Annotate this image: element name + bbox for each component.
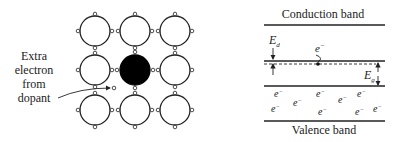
conduction-band-label: Conduction band [282,7,364,21]
atom [156,91,194,129]
band-diagram: Conduction band Ed e− Eg e− e− e− e− e− … [264,7,385,137]
atom [76,12,114,50]
valence-electron: e− [293,97,302,108]
atom [156,51,194,89]
valence-electron: e− [357,88,366,99]
dopant-atom [115,50,155,90]
valence-electron: e− [274,88,283,99]
excited-electron-label: e− [315,42,325,54]
atom [76,51,114,89]
gap-energy-label: Eg [363,68,375,84]
annotation-line: Extra [21,49,48,63]
extra-electron [112,86,116,90]
annotation-line: dopant [18,91,51,105]
annotation-line: from [22,77,46,91]
valence-electron: e− [373,103,382,114]
atom [116,12,154,50]
valence-electron: e− [355,106,364,117]
atom [116,91,154,129]
donor-electron [316,62,320,66]
valence-electrons: e− e− e− e− e− e− e− e− e− [271,88,382,117]
diagram-canvas: Extra electron from dopant Conduction ba… [0,0,397,142]
crystal-lattice [76,12,194,129]
atom [76,91,114,129]
valence-electron: e− [316,88,325,99]
valence-band-label: Valence band [292,123,356,137]
valence-electron: e− [271,103,280,114]
annotation-line: electron [15,63,54,77]
valence-electron: e− [338,94,347,105]
atom [156,12,194,50]
donor-energy-label: Ed [268,33,280,49]
valence-electron: e− [318,106,327,117]
